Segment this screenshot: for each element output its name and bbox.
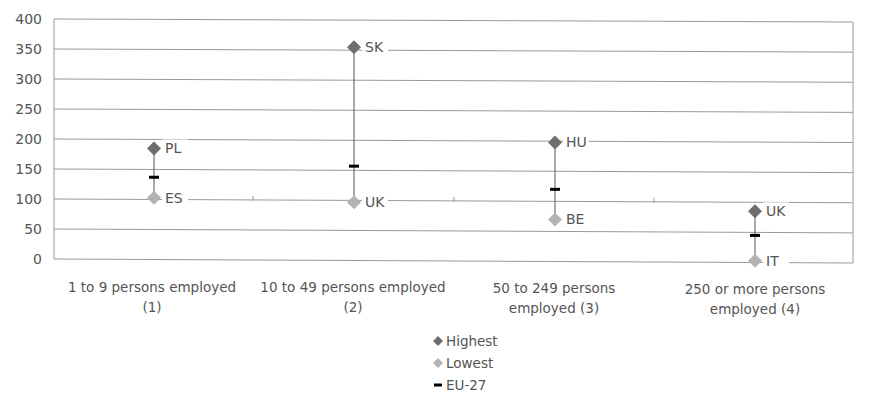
x-label-3: 50 to 249 persons employed (3) bbox=[444, 278, 664, 318]
y-tick-label: 350 bbox=[15, 41, 42, 57]
highest-country-label: UK bbox=[766, 203, 786, 219]
gridline bbox=[54, 79, 853, 82]
eu27-marker bbox=[349, 165, 359, 168]
y-tick-label: 0 bbox=[33, 251, 42, 267]
y-tick-label: 250 bbox=[15, 101, 42, 117]
legend-item-highest: Highest bbox=[432, 330, 498, 352]
dash-icon bbox=[432, 380, 444, 390]
lowest-country-label: UK bbox=[365, 194, 385, 210]
eu27-marker bbox=[750, 234, 760, 237]
highest-marker bbox=[548, 135, 562, 149]
highest-marker bbox=[147, 141, 161, 155]
lowest-country-label: IT bbox=[766, 253, 779, 269]
lowest-marker bbox=[347, 195, 361, 209]
legend-item-lowest: Lowest bbox=[432, 352, 498, 374]
lowest-country-label: BE bbox=[566, 211, 584, 227]
highest-country-label: PL bbox=[165, 140, 181, 156]
lowest-marker bbox=[147, 191, 161, 205]
y-tick-label: 100 bbox=[15, 191, 42, 207]
x-label-1: 1 to 9 persons employed (1) bbox=[42, 277, 262, 317]
legend-item-eu27: EU-27 bbox=[432, 374, 498, 396]
y-tick-label: 150 bbox=[15, 161, 42, 177]
highest-marker bbox=[748, 204, 762, 218]
data-series: PLESSKUKHUBEUKIT bbox=[147, 38, 789, 269]
lowest-marker bbox=[748, 254, 762, 268]
y-axis-ticks: 050100150200250300350400 bbox=[15, 11, 42, 267]
gridline bbox=[54, 19, 853, 22]
lowest-marker bbox=[548, 212, 562, 226]
diamond-icon bbox=[432, 358, 444, 368]
gridline bbox=[54, 169, 853, 173]
gridline bbox=[54, 109, 853, 112]
highest-marker bbox=[347, 40, 361, 54]
lowest-country-label: ES bbox=[165, 190, 183, 206]
eu27-marker bbox=[550, 188, 560, 191]
highest-country-label: HU bbox=[566, 134, 587, 150]
x-label-2: 10 to 49 persons employed (2) bbox=[243, 277, 463, 317]
y-tick-label: 300 bbox=[15, 71, 42, 87]
y-tick-label: 400 bbox=[15, 11, 42, 27]
gridline bbox=[54, 259, 853, 263]
y-tick-label: 50 bbox=[24, 221, 42, 237]
eu27-marker bbox=[149, 176, 159, 179]
y-tick-label: 200 bbox=[15, 131, 42, 147]
highest-country-label: SK bbox=[365, 39, 384, 55]
gridline bbox=[54, 229, 853, 233]
diamond-icon bbox=[432, 336, 444, 346]
gridline bbox=[54, 49, 853, 52]
x-label-4: 250 or more persons employed (4) bbox=[645, 279, 865, 319]
legend: Highest Lowest EU-27 bbox=[432, 330, 498, 396]
